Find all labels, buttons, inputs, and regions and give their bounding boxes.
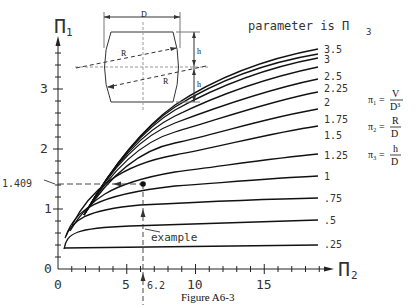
y-axis-label: Π [54,14,66,38]
curve-label: 2 [324,97,330,108]
inset-diagram [75,12,209,110]
curve-label: .5 [324,215,336,226]
formula-1-num: V [392,88,400,99]
x-axis-label: Π [338,257,350,281]
curve-2.25 [84,79,318,215]
formula-3-num: h [393,143,398,154]
x-axis-label-sub: 2 [351,269,358,282]
curve-label: 3 [324,54,330,65]
inset-label-r2: R [163,77,169,86]
curve-label: 1 [324,171,330,182]
curve-labels: 3.5 3 2.5 2.25 2 1.75 1.5 1.25 1 .75 .5 … [324,44,348,250]
x-tick-5: 5 [122,277,130,292]
inset-label-h2: h [197,80,201,89]
curve-label: 1.5 [324,130,342,141]
formula-1-lhs: π₁ = [368,94,385,105]
formula-1-den: D³ [390,101,400,112]
chart: 0 1 2 3 0 5 10 15 Π 1 Π 2 parameter is Π… [0,0,417,305]
y-axis-label-sub: 1 [66,26,73,39]
x-tick-10: 10 [187,277,203,292]
y-tick-1: 1 [44,201,52,216]
curve-label: 2.5 [324,71,342,82]
formula-2-num: R [392,115,399,126]
legend-title: parameter is Π [248,19,349,33]
curve-label: .75 [324,193,342,204]
example-y-value: 1.409 [2,178,32,189]
example-x-value: 6.2 [147,280,165,291]
y-tick-0: 0 [44,261,52,276]
curve-1.25 [70,154,318,231]
curve-label: 1.75 [324,114,348,125]
formulas: π₁ = V D³ π₂ = R D π₃ = h D [368,88,403,167]
curve-3 [84,54,318,215]
legend-title-sub-index: 3 [366,27,371,37]
formula-2-den: D [391,128,398,139]
curves [64,49,318,249]
inset-label-h1: h [197,47,201,56]
curve-0.25 [64,245,318,248]
curve-label: 1.25 [324,150,348,161]
inset-label-d: D [141,10,147,19]
x-tick-15: 15 [256,277,272,292]
formula-3-lhs: π₃ = [368,149,385,160]
y-tick-3: 3 [40,81,48,96]
figure-caption: Figure A6-3 [181,291,235,303]
inset-label-r1: R [121,49,127,58]
x-tick-0: 0 [54,277,62,292]
y-tick-2: 2 [40,141,48,156]
formula-2-lhs: π₂ = [368,121,385,132]
formula-3-den: D [391,156,398,167]
curve-2 [84,92,318,215]
example-label: example [151,231,197,244]
curve-label: 2.25 [324,83,348,94]
curve-label: .25 [324,239,342,250]
